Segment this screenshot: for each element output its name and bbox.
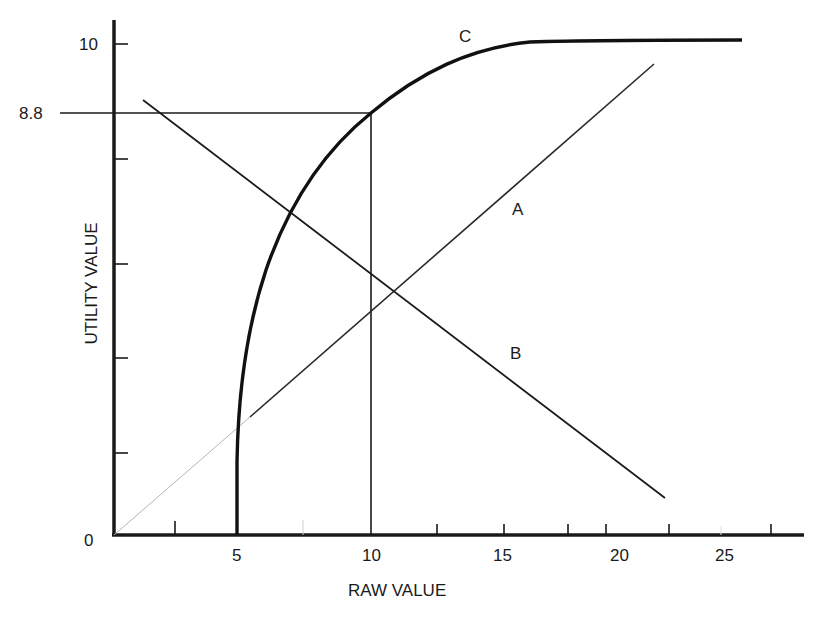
x-axis-title: RAW VALUE <box>348 582 446 599</box>
y-tick-label-8-8: 8.8 <box>19 105 43 122</box>
line-a <box>250 64 654 417</box>
utility-chart <box>0 0 820 618</box>
line-a-faint <box>114 417 250 535</box>
y-ticks <box>114 44 128 453</box>
curve-label-c: C <box>459 28 471 45</box>
curve-label-b: B <box>510 345 521 362</box>
x-tick-label-20: 20 <box>610 547 629 564</box>
curve-label-a: A <box>512 201 523 218</box>
x-tick-label-25: 25 <box>715 547 734 564</box>
x-ticks <box>175 521 771 535</box>
origin-label: 0 <box>84 532 93 549</box>
x-tick-label-15: 15 <box>493 547 512 564</box>
y-axis-title: UTILITY VALUE <box>83 214 100 354</box>
x-tick-label-10: 10 <box>362 547 381 564</box>
y-tick-label-10: 10 <box>79 36 98 53</box>
line-b <box>143 100 665 498</box>
x-tick-label-5: 5 <box>232 547 241 564</box>
curve-c <box>237 40 742 535</box>
